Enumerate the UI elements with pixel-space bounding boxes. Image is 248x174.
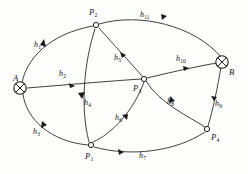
node-label-P1: P1 xyxy=(85,152,93,161)
edge-label-h4: h4 xyxy=(84,99,91,107)
edge-h11-path xyxy=(99,20,221,57)
edge-label-h7: h7 xyxy=(139,152,146,160)
node-label-B: B xyxy=(229,68,234,77)
edge-label-h5: h5 xyxy=(114,54,121,62)
edge-h9-path xyxy=(208,67,221,126)
edge-h7-arrow xyxy=(118,149,124,155)
node-P1-circle[interactable] xyxy=(88,142,93,147)
edge-h1-path xyxy=(22,26,93,83)
edge-h10[interactable] xyxy=(147,63,217,78)
graph-canvas xyxy=(0,0,248,174)
edge-h11-arrow xyxy=(161,14,167,20)
node-B[interactable] xyxy=(216,56,228,68)
edge-label-h11: h11 xyxy=(140,11,149,19)
edge-h8[interactable] xyxy=(146,81,205,127)
edge-label-h2: h2 xyxy=(59,70,66,78)
node-P4-circle[interactable] xyxy=(204,126,209,131)
node-P3-circle[interactable] xyxy=(141,76,146,81)
edge-h5[interactable] xyxy=(99,28,142,76)
edge-label-h1: h1 xyxy=(34,41,41,49)
graph-diagram: A B P1 P2 P3 P4 h1 h2 h3 h4 h5 h6 h7 h8 … xyxy=(0,0,248,174)
edge-h3-arrow xyxy=(41,121,47,128)
edge-label-h8: h8 xyxy=(167,98,174,106)
node-label-P2: P2 xyxy=(89,8,97,17)
edge-label-h6: h6 xyxy=(115,114,122,122)
node-P2-circle[interactable] xyxy=(93,22,98,27)
edge-h6-arrow xyxy=(122,114,128,120)
edge-label-h9: h9 xyxy=(215,100,222,108)
edge-h9[interactable] xyxy=(208,67,221,126)
edge-h5-path xyxy=(99,28,142,76)
node-label-P4: P4 xyxy=(211,133,219,142)
edge-h4-path xyxy=(84,29,95,142)
edge-label-h10: h10 xyxy=(176,55,186,63)
node-A[interactable] xyxy=(14,82,26,94)
edge-h10-arrow xyxy=(183,66,189,71)
edge-h7-path xyxy=(94,132,205,152)
edge-h8-path xyxy=(146,81,205,127)
edge-h3-path xyxy=(23,94,88,145)
edge-h7[interactable] xyxy=(94,132,205,155)
edge-h1[interactable] xyxy=(22,26,93,83)
edge-h11[interactable] xyxy=(99,14,221,57)
edge-h4[interactable] xyxy=(78,29,95,142)
edge-h3[interactable] xyxy=(23,94,88,145)
node-label-P3: P3 xyxy=(133,84,141,93)
edge-h10-path xyxy=(147,63,217,78)
node-label-A: A xyxy=(13,74,18,83)
edge-label-h3: h3 xyxy=(33,128,40,136)
